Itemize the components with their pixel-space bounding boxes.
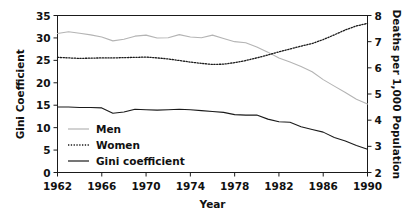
x-axis-tick-label: 1970 (126, 181, 166, 192)
series-line-men (58, 32, 368, 104)
y-axis-right-tick-label: 2 (375, 168, 382, 179)
y-axis-right-tick-label: 6 (375, 63, 382, 74)
x-axis-tick-label: 1966 (82, 181, 122, 192)
y-axis-right-ticks (368, 16, 372, 173)
legend-swatches (68, 129, 89, 161)
chart-figure: Gini Coefficient Deaths per 1,000 Popula… (0, 0, 414, 220)
y-axis-right-tick-label: 8 (375, 11, 382, 22)
x-axis-ticks (58, 173, 368, 177)
y-axis-left-tick-label: 15 (25, 100, 51, 111)
y-axis-right-tick-label: 3 (375, 141, 382, 152)
y-axis-left-tick-label: 5 (25, 145, 51, 156)
series-line-women (58, 23, 368, 64)
y-axis-right-title: Deaths per 1,000 Population (392, 9, 403, 179)
y-axis-left-tick-label: 20 (25, 78, 51, 89)
x-axis-tick-label: 1978 (215, 181, 255, 192)
y-axis-right-tick-label: 4 (375, 115, 382, 126)
y-axis-right-tick-label: 7 (375, 37, 382, 48)
y-axis-left-ticks (54, 16, 58, 173)
x-axis-tick-label: 1962 (38, 181, 78, 192)
x-axis-tick-label: 1986 (303, 181, 343, 192)
x-axis-tick-label: 1990 (348, 181, 388, 192)
y-axis-left-tick-label: 10 (25, 123, 51, 134)
legend-label-gini-coefficient: Gini coefficient (96, 156, 185, 167)
x-axis-tick-label: 1974 (170, 181, 210, 192)
y-axis-left-tick-label: 30 (25, 33, 51, 44)
y-axis-right-tick-label: 5 (375, 89, 382, 100)
y-axis-left-tick-label: 0 (25, 168, 51, 179)
y-axis-left-tick-label: 25 (25, 55, 51, 66)
legend-label-women: Women (96, 140, 140, 151)
x-axis-title: Year (200, 199, 226, 210)
legend-label-men: Men (96, 124, 121, 135)
x-axis-tick-label: 1982 (259, 181, 299, 192)
y-axis-left-tick-label: 35 (25, 11, 51, 22)
